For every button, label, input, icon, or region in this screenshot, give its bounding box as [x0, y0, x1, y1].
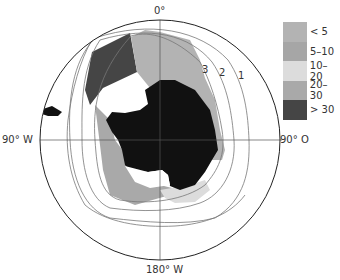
legend-item: 20–30: [283, 81, 340, 101]
legend-label: < 5: [310, 26, 328, 37]
legend-swatch: [283, 81, 307, 101]
legend-swatch: [283, 22, 307, 42]
legend-swatch: [283, 61, 307, 81]
label-0-deg: 0°: [154, 5, 165, 16]
legend-item: < 5: [283, 22, 340, 42]
legend-label: 5–10: [310, 46, 334, 57]
legend: < 5 5–10 10–20 20–30 > 30: [283, 22, 340, 120]
legend-label: > 30: [310, 104, 334, 115]
legend-item: 10–20: [283, 61, 340, 81]
contour-label-2: 2: [219, 67, 225, 78]
legend-item: 5–10: [283, 42, 340, 62]
contour-label-1: 1: [238, 70, 244, 81]
label-90-w: 90° W: [2, 134, 33, 145]
legend-swatch: [283, 42, 307, 62]
legend-label: 20–30: [310, 79, 340, 101]
legend-item: > 30: [283, 100, 340, 120]
contour-label-3: 3: [202, 64, 208, 75]
legend-swatch: [283, 100, 307, 120]
label-180-w: 180° W: [146, 264, 183, 275]
label-90-o: 90° O: [280, 134, 309, 145]
